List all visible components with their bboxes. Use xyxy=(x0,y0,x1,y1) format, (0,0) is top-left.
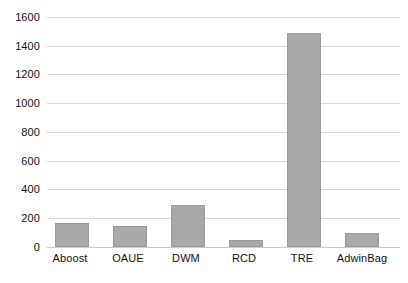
bar-aboost[interactable] xyxy=(55,223,89,247)
y-tick-label-1000: 1000 xyxy=(4,98,40,109)
bar-chart: 1600 1400 1200 1000 800 600 400 200 0 Ab… xyxy=(0,0,408,283)
y-tick-label-1400: 1400 xyxy=(4,41,40,52)
y-tick-label-1600: 1600 xyxy=(4,12,40,23)
x-tick-label-oaue: OAUE xyxy=(95,252,161,264)
y-tick-label-600: 600 xyxy=(4,156,40,167)
x-tick-label-tre: TRE xyxy=(269,252,335,264)
bars-layer xyxy=(47,17,400,247)
y-tick-label-1200: 1200 xyxy=(4,69,40,80)
x-tick-label-rcd: RCD xyxy=(211,252,277,264)
y-tick-label-800: 800 xyxy=(4,127,40,138)
plot-area xyxy=(47,17,400,247)
bar-adwinbag[interactable] xyxy=(345,233,379,247)
y-tick-label-400: 400 xyxy=(4,184,40,195)
y-tick-label-200: 200 xyxy=(4,213,40,224)
bar-rcd[interactable] xyxy=(229,240,263,247)
x-tick-label-adwinbag: AdwinBag xyxy=(327,252,397,264)
bar-oaue[interactable] xyxy=(113,226,147,247)
x-tick-label-aboost: Aboost xyxy=(37,252,103,264)
bar-tre[interactable] xyxy=(287,33,321,247)
x-tick-label-dwm: DWM xyxy=(153,252,219,264)
bar-dwm[interactable] xyxy=(171,205,205,247)
y-tick-label-0: 0 xyxy=(4,242,40,253)
